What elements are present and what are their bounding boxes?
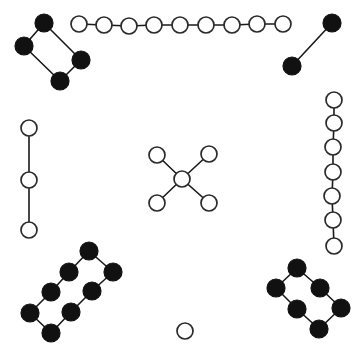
graph-node-open <box>326 115 342 131</box>
graph-node-open <box>275 16 291 32</box>
graph-node-open <box>21 222 37 238</box>
graph-node-open <box>325 212 341 228</box>
graph-node-open <box>96 17 112 33</box>
graph-node-open <box>325 164 341 180</box>
graph-node-filled <box>267 279 285 297</box>
graph-node-open <box>71 16 87 32</box>
nodes-layer <box>15 14 350 342</box>
graph-node-filled <box>72 51 90 69</box>
graph-node-open <box>149 195 165 211</box>
graph-node-filled <box>35 14 53 32</box>
graph-node-open <box>149 147 165 163</box>
graph-node-open <box>146 17 162 33</box>
graph-node-open <box>198 17 214 33</box>
graph-node-filled <box>62 303 80 321</box>
graph-node-filled <box>104 263 122 281</box>
graph-node-open <box>172 17 188 33</box>
graph-node-filled <box>42 324 60 342</box>
graph-node-filled <box>323 14 341 32</box>
graph-figure <box>0 0 364 358</box>
graph-node-filled <box>80 242 98 260</box>
graph-node-filled <box>42 283 60 301</box>
graph-node-open <box>326 92 342 108</box>
graph-node-filled <box>83 282 101 300</box>
graph-node-filled <box>311 279 329 297</box>
graph-node-filled <box>21 304 39 322</box>
graph-canvas <box>0 0 364 358</box>
graph-node-filled <box>51 72 69 90</box>
graph-node-open <box>201 195 217 211</box>
graph-node-filled <box>15 37 33 55</box>
graph-node-filled <box>283 57 301 75</box>
graph-node-filled <box>288 300 306 318</box>
graph-node-open <box>324 188 340 204</box>
graph-node-open <box>174 171 190 187</box>
graph-node-open <box>121 18 137 34</box>
graph-node-filled <box>332 299 350 317</box>
graph-node-open <box>21 172 37 188</box>
graph-node-open <box>326 238 342 254</box>
graph-node-open <box>201 146 217 162</box>
graph-node-filled <box>288 259 306 277</box>
graph-node-filled <box>60 263 78 281</box>
graph-node-open <box>21 120 37 136</box>
graph-node-filled <box>310 320 328 338</box>
graph-node-open <box>224 17 240 33</box>
graph-node-open <box>249 16 265 32</box>
graph-node-open <box>325 139 341 155</box>
graph-node-open <box>177 323 193 339</box>
